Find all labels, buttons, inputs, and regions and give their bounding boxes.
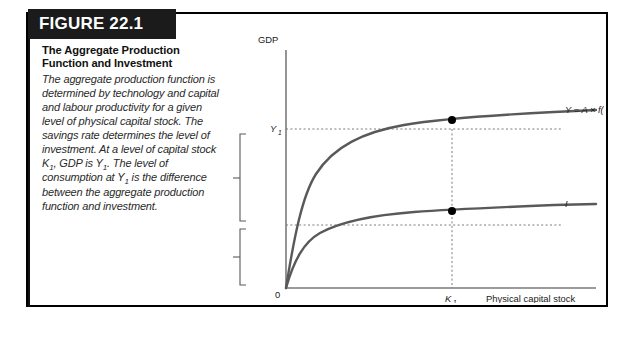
chart-area: GDP Physical capital stock 0 Y 1 K 1 Co	[224, 28, 604, 303]
figure-banner: FIGURE 22.1	[28, 9, 176, 39]
y-tick-sublabel: 1	[278, 129, 282, 136]
consumption-bracket	[240, 134, 246, 221]
production-function-label: Y = A × f(K, L)	[565, 104, 604, 115]
x-axis-label: Physical capital stock	[486, 293, 575, 303]
x-tick-label: K	[445, 293, 452, 303]
origin-label: 0	[275, 289, 280, 300]
caption-block: The Aggregate Production Function and In…	[42, 44, 220, 213]
caption-body: The aggregate production function is det…	[42, 72, 220, 213]
y-tick-label: Y	[270, 123, 277, 134]
figure-number-label: FIGURE 22.1	[28, 14, 143, 34]
marker-output-at-k1	[448, 116, 456, 124]
y-axis-label: GDP	[258, 34, 278, 45]
investment-bracket	[240, 229, 246, 285]
production-function-curve	[286, 110, 596, 288]
marker-investment-at-k1	[448, 207, 456, 215]
investment-curve	[286, 204, 596, 288]
chart-svg: GDP Physical capital stock 0 Y 1 K 1 Co	[224, 28, 604, 303]
x-tick-sublabel: 1	[453, 299, 457, 303]
caption-divider	[28, 39, 30, 307]
investment-curve-label: I	[565, 198, 568, 209]
caption-title: The Aggregate Production Function and In…	[42, 44, 220, 71]
figure-container: FIGURE 22.1 The Aggregate Production Fun…	[26, 12, 608, 307]
